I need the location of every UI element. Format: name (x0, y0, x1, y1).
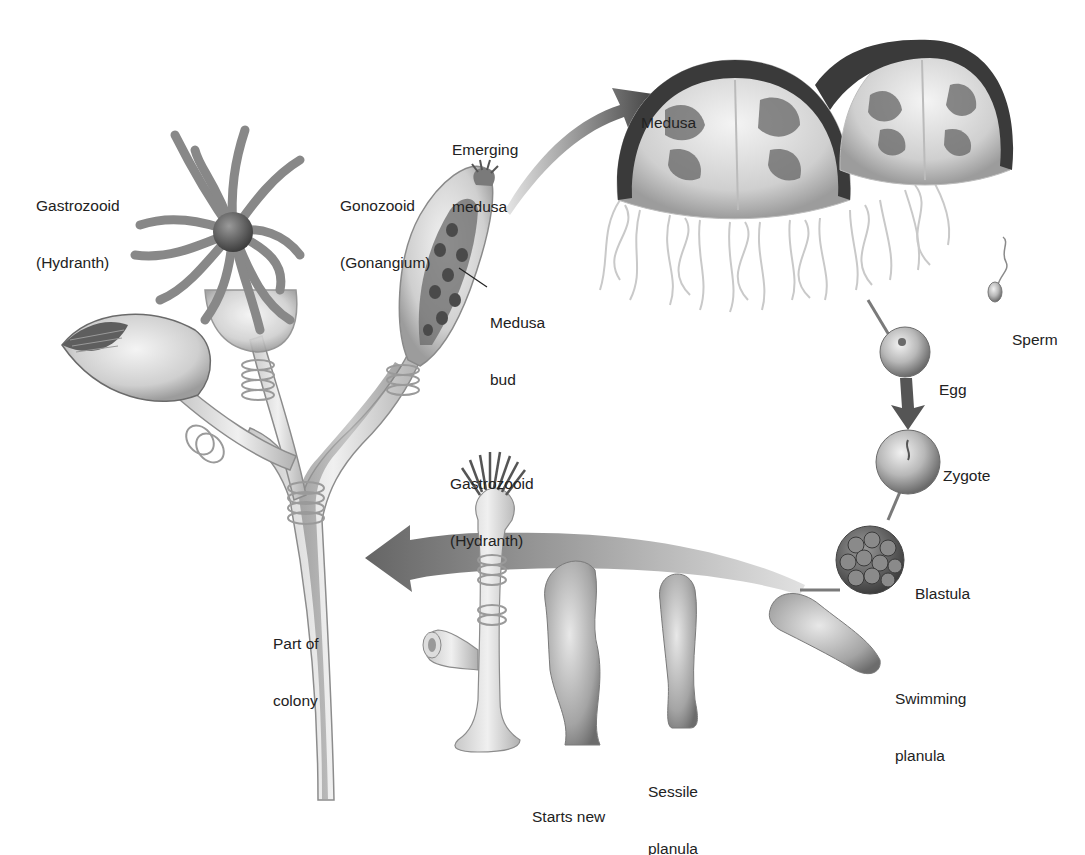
label-gastrozooid-bottom: Gastrozooid (Hydranth) (450, 436, 534, 569)
sperm-illustration (988, 237, 1007, 302)
label-medusa: Medusa (641, 75, 696, 151)
zygote-illustration (876, 430, 940, 494)
sessile-planula-illustration (660, 574, 698, 728)
label-medusa-bud: Medusa bud (490, 275, 545, 408)
label-sessile-planula: Sessile planula (648, 744, 698, 855)
label-blastula: Blastula (915, 546, 970, 622)
label-zygote: Zygote (943, 428, 990, 504)
life-cycle-diagram: Medusa Emerging medusa Gastrozooid (Hydr… (0, 0, 1085, 855)
new-colony-budding-illustration (545, 561, 600, 745)
colony-illustration (62, 290, 422, 800)
label-gonozooid: Gonozooid (Gonangium) (340, 158, 430, 291)
label-swimming-planula: Swimming planula (895, 651, 966, 784)
arrow-egg-to-zygote (891, 378, 925, 430)
label-sperm: Sperm (1012, 292, 1058, 368)
label-part-of-colony: Part of colony (273, 596, 319, 729)
label-egg: Egg (939, 342, 967, 418)
egg-illustration (880, 327, 930, 377)
gastrozooid-top-body (213, 212, 253, 252)
label-emerging-medusa: Emerging medusa (452, 102, 518, 235)
blastula-illustration (836, 526, 904, 594)
label-gastrozooid-top: Gastrozooid (Hydranth) (36, 158, 120, 291)
label-starts-new-colony: Starts new colony by asexual budding (532, 769, 645, 855)
swimming-planula-illustration (769, 594, 880, 674)
